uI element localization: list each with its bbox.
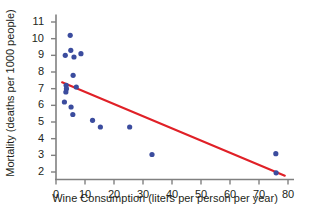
scatter-plot-figure: Mortality (deaths per 1000 people) Wine …: [0, 0, 322, 216]
data-point: [70, 112, 75, 117]
data-point: [127, 124, 132, 129]
y-tick-label: 5: [28, 116, 44, 127]
y-tick-label: 2: [28, 166, 44, 177]
data-point: [71, 73, 76, 78]
y-tick-label: 11: [28, 16, 44, 27]
y-tick-label: 8: [28, 66, 44, 77]
axes: [55, 15, 294, 180]
regression-line: [62, 82, 285, 175]
x-tick-label: 10: [73, 189, 97, 200]
data-point: [63, 89, 68, 94]
x-tick-label: 0: [44, 189, 68, 200]
data-point: [274, 170, 279, 175]
y-tick-label: 6: [28, 99, 44, 110]
trend-line: [62, 82, 285, 175]
data-point: [68, 48, 73, 53]
x-tick-label: 60: [218, 189, 242, 200]
x-tick-label: 30: [131, 189, 155, 200]
y-tick-label: 3: [28, 149, 44, 160]
data-point: [63, 53, 68, 58]
x-tick-label: 40: [160, 189, 184, 200]
plot-area: [0, 0, 322, 216]
x-tick-label: 20: [102, 189, 126, 200]
data-points: [62, 33, 279, 176]
data-point: [98, 124, 103, 129]
data-point: [68, 104, 73, 109]
data-point: [62, 99, 67, 104]
x-tick-label: 80: [276, 189, 300, 200]
x-tick-label: 50: [189, 189, 213, 200]
data-point: [90, 118, 95, 123]
data-point: [74, 84, 79, 89]
x-tick-label: 70: [247, 189, 271, 200]
y-tick-label: 10: [28, 33, 44, 44]
data-point: [149, 152, 154, 157]
axis-ticks: [51, 22, 288, 185]
y-tick-label: 4: [28, 133, 44, 144]
data-point: [68, 33, 73, 38]
data-point: [78, 51, 83, 56]
y-tick-label: 7: [28, 83, 44, 94]
y-tick-label: 9: [28, 49, 44, 60]
data-point: [273, 151, 278, 156]
data-point: [71, 54, 76, 59]
